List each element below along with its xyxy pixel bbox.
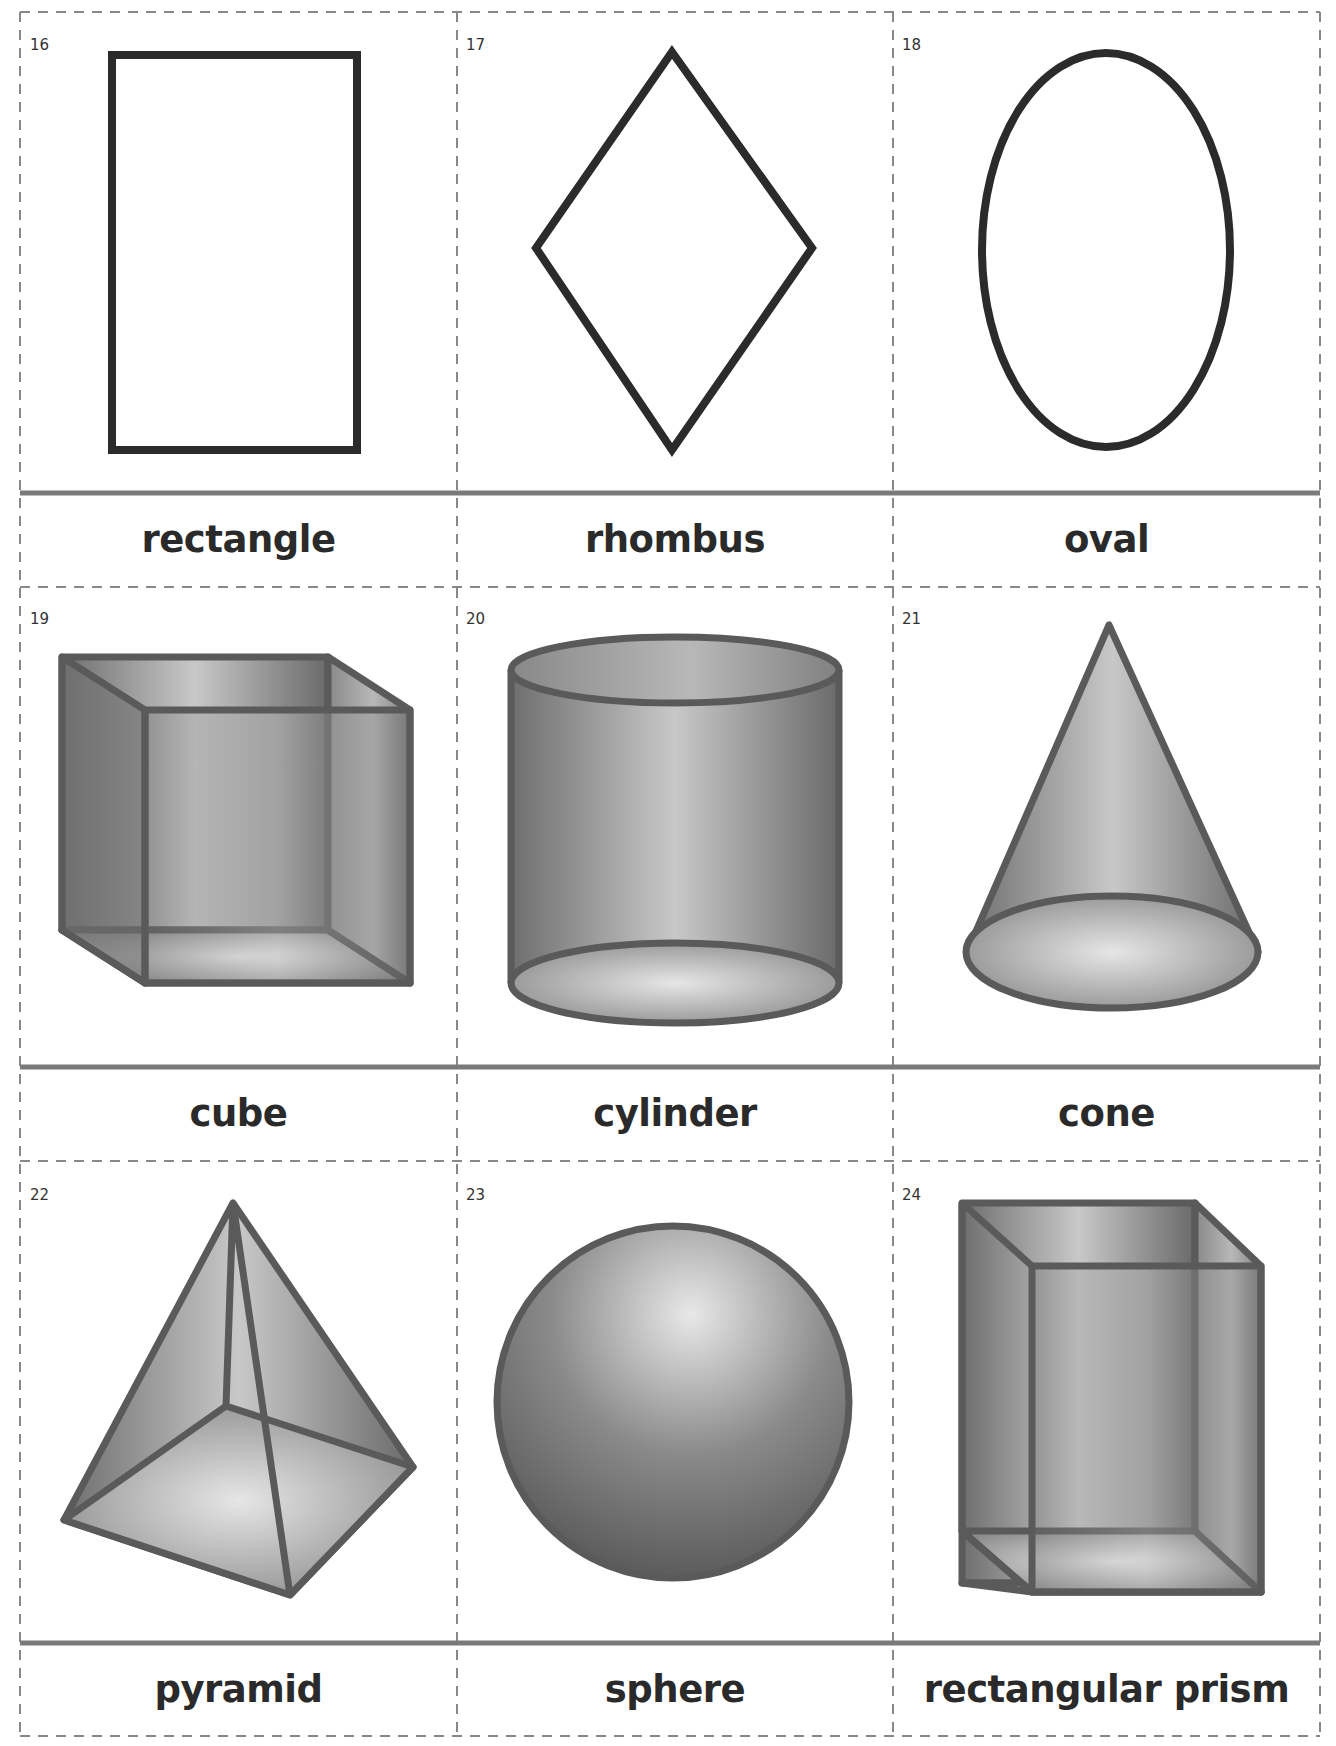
card-label: cylinder — [457, 1092, 893, 1135]
card-number: 16 — [30, 36, 49, 54]
card-number: 24 — [902, 1186, 921, 1204]
card-number: 19 — [30, 610, 49, 628]
sphere-icon — [497, 1226, 849, 1578]
card-label: oval — [893, 518, 1320, 561]
cube-icon — [62, 657, 410, 983]
rhombus-icon — [536, 52, 812, 450]
card-number: 20 — [466, 610, 485, 628]
cone-icon — [966, 625, 1258, 1008]
card-number: 17 — [466, 36, 485, 54]
card-label: cone — [893, 1092, 1320, 1135]
card-label: pyramid — [20, 1668, 457, 1711]
card-label: rectangular prism — [893, 1668, 1320, 1711]
flashcard-sheet: 16 17 18 19 20 21 22 23 24 rectangle rho… — [0, 0, 1336, 1746]
card-number: 23 — [466, 1186, 485, 1204]
card-number: 21 — [902, 610, 921, 628]
rectangular-prism-icon — [962, 1203, 1261, 1592]
card-label: rectangle — [20, 518, 457, 561]
sheet-graphics — [0, 0, 1336, 1746]
card-number: 22 — [30, 1186, 49, 1204]
cylinder-icon — [511, 637, 839, 1023]
rectangle-icon — [112, 55, 357, 450]
oval-icon — [982, 53, 1230, 447]
card-label: cube — [20, 1092, 457, 1135]
card-number: 18 — [902, 36, 921, 54]
card-label: sphere — [457, 1668, 893, 1711]
card-label: rhombus — [457, 518, 893, 561]
pyramid-icon — [64, 1203, 413, 1595]
